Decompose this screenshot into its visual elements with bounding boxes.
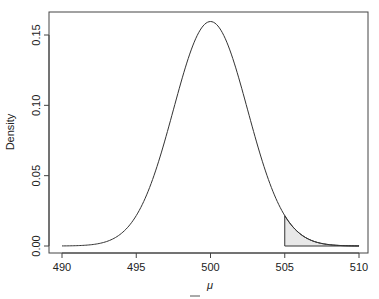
plot-frame bbox=[49, 12, 368, 253]
x-tick-label: 490 bbox=[53, 261, 71, 273]
y-axis-label: Density bbox=[4, 113, 16, 150]
x-tick-label: 495 bbox=[127, 261, 145, 273]
x-axis-label: μ bbox=[206, 279, 213, 291]
y-tick-label: 0.05 bbox=[30, 165, 42, 186]
x-tick-label: 505 bbox=[276, 261, 294, 273]
x-tick-label: 510 bbox=[350, 261, 368, 273]
density-curve bbox=[62, 22, 359, 246]
y-axis: 0.000.050.100.15 bbox=[30, 24, 49, 256]
shaded-tail-area bbox=[285, 216, 359, 246]
y-tick-label: 0.00 bbox=[30, 235, 42, 256]
y-tick-label: 0.10 bbox=[30, 95, 42, 116]
x-tick-label: 500 bbox=[201, 261, 219, 273]
x-axis: 490495500505510 bbox=[53, 253, 368, 273]
y-tick-label: 0.15 bbox=[30, 24, 42, 45]
density-chart: 490495500505510 0.000.050.100.15 Density… bbox=[0, 0, 379, 299]
